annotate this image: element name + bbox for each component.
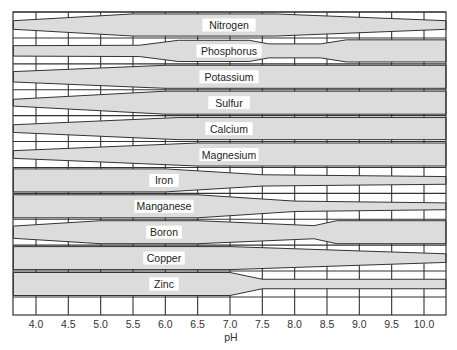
band-label-boron: Boron <box>150 226 178 238</box>
band-label-potassium: Potassium <box>204 71 253 83</box>
band-label-copper: Copper <box>147 252 182 264</box>
x-tick-label: 5.0 <box>93 318 108 330</box>
band-label-manganese: Manganese <box>137 200 192 212</box>
band-copper <box>13 247 446 270</box>
x-tick-label: 4.0 <box>29 318 44 330</box>
x-tick-label: 10.0 <box>414 318 435 330</box>
band-label-phosphorus: Phosphorus <box>201 45 257 57</box>
band-label-sulfur: Sulfur <box>215 97 243 109</box>
x-tick-label: 8.0 <box>287 318 302 330</box>
band-boron <box>13 221 446 244</box>
x-tick-label: 9.0 <box>352 318 367 330</box>
x-axis-title: pH <box>224 331 237 343</box>
band-label-calcium: Calcium <box>210 123 248 135</box>
x-tick-label: 8.5 <box>320 318 335 330</box>
x-tick-label: 6.5 <box>190 318 205 330</box>
x-tick-label: 5.5 <box>126 318 141 330</box>
band-label-zinc: Zinc <box>154 278 174 290</box>
band-label-magnesium: Magnesium <box>202 149 257 161</box>
band-label-iron: Iron <box>155 174 173 186</box>
x-tick-label: 7.0 <box>223 318 238 330</box>
band-iron <box>13 169 446 192</box>
ph-nutrient-availability-chart: NitrogenPhosphorusPotassiumSulfurCalcium… <box>0 0 457 350</box>
x-tick-label: 4.5 <box>61 318 76 330</box>
band-manganese <box>13 195 446 218</box>
x-tick-label: 6.0 <box>158 318 173 330</box>
band-zinc <box>13 273 446 296</box>
x-axis-ticks: 4.04.55.05.56.06.57.07.58.08.59.09.510.0 <box>29 318 435 330</box>
band-label-nitrogen: Nitrogen <box>209 19 249 31</box>
x-tick-label: 9.5 <box>384 318 399 330</box>
x-tick-label: 7.5 <box>255 318 270 330</box>
